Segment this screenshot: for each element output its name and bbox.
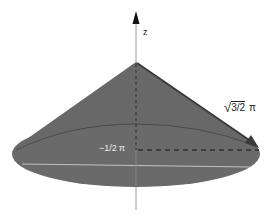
slant-pi-symbol: π — [249, 102, 256, 113]
height-label: −1/2π — [99, 144, 125, 153]
cone-diagram: z √3/2π −1/2π — [0, 0, 273, 222]
slant-length-label: √3/2π — [224, 101, 256, 114]
z-axis-arrowhead-icon — [133, 11, 140, 24]
height-value: −1/2 — [99, 143, 117, 153]
slant-radicand: 3/2 — [231, 101, 245, 113]
height-pi-symbol: π — [119, 143, 125, 153]
z-axis-label: z — [143, 28, 148, 37]
